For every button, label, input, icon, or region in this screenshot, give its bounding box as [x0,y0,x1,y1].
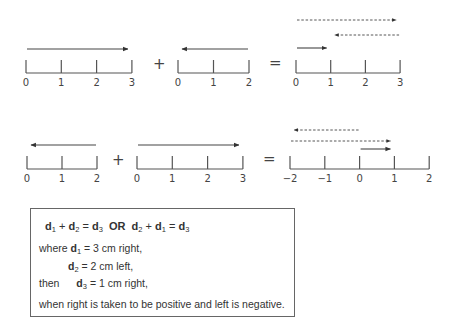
tick-label: 0 [293,77,299,88]
row-2-operand-1: 012 [24,145,100,184]
subscript: 3 [83,282,87,291]
d2-line: d2 = 2 cm left, [68,260,133,272]
plus-sign: + [153,55,166,73]
tick-label: −2 [283,173,298,184]
row-2-result: −2−1012 [283,130,433,184]
or-keyword: OR [109,220,126,232]
d-symbol: d [45,220,52,232]
tick-label: −1 [317,173,332,184]
plus: + [59,220,65,232]
tick-label: 2 [362,77,368,88]
subscript: 3 [185,225,189,234]
then-label: then [39,277,59,289]
tick-label: 1 [169,173,175,184]
tick-label: 1 [328,77,334,88]
equals: = [82,220,88,232]
row-1-operand-2: 012 [175,49,252,88]
tick-label: 0 [356,173,362,184]
subscript: 2 [75,225,79,234]
then-line: then d3 = 1 cm right, [39,277,148,289]
where-label: where [39,242,68,254]
equals-sign: = [269,54,282,72]
row-1-operand-1: 0123 [23,49,135,88]
where-line: where d1 = 3 cm right, [39,242,142,254]
tick-label: 3 [397,77,403,88]
tick-label: 2 [246,77,252,88]
d3-value: = 1 cm right, [90,277,148,289]
tick-label: 0 [23,77,29,88]
subscript: 1 [52,225,56,234]
tick-label: 1 [59,173,65,184]
equals: = [169,220,175,232]
tick-label: 2 [94,173,100,184]
d-symbol: d [92,220,99,232]
tick-label: 1 [210,77,216,88]
plus-sign: + [112,151,125,169]
subscript: 1 [77,247,81,256]
explanation-box: d1 + d2 = d3 OR d2 + d1 = d3 where d1 = … [30,208,295,317]
tick-label: 2 [426,173,432,184]
sign-convention-note: when right is taken to be positive and l… [39,298,285,310]
tick-label: 3 [129,77,135,88]
equation-line: d1 + d2 = d3 OR d2 + d1 = d3 [45,220,189,232]
tick-label: 3 [240,173,246,184]
row-2-operand-2: 0123 [134,145,246,184]
row-1-result: 0123 [293,20,403,88]
tick-label: 0 [175,77,181,88]
tick-label: 2 [204,173,210,184]
equals-sign: = [263,150,276,168]
tick-label: 0 [24,173,30,184]
d1-value: = 3 cm right, [84,242,142,254]
tick-label: 1 [391,173,397,184]
tick-label: 1 [58,77,64,88]
tick-label: 0 [134,173,140,184]
subscript: 3 [99,225,103,234]
plus: + [146,220,152,232]
d2-value: = 2 cm left, [82,260,134,272]
tick-label: 2 [93,77,99,88]
subscript: 2 [74,265,78,274]
subscript: 2 [138,225,142,234]
subscript: 1 [162,225,166,234]
d-symbol: d [155,220,162,232]
